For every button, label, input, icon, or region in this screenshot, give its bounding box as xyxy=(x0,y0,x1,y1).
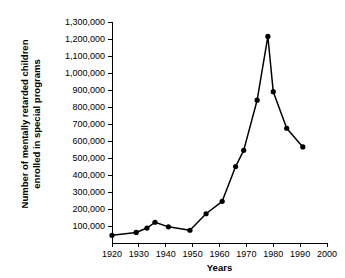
data-point-marker xyxy=(241,148,246,153)
y-axis-tick-label: 300,000 xyxy=(72,187,105,197)
data-series-line xyxy=(112,36,303,235)
y-axis-tick-label: 200,000 xyxy=(72,204,105,214)
data-point-marker xyxy=(265,34,270,39)
data-point-marker xyxy=(187,228,192,233)
x-axis-title: Years xyxy=(207,262,232,273)
data-point-marker xyxy=(271,89,276,94)
x-axis-tick-label: 1940 xyxy=(156,249,176,259)
x-axis-tick-label: 2000 xyxy=(317,249,337,259)
y-axis-tick-label: 800,000 xyxy=(72,102,105,112)
data-point-marker xyxy=(284,126,289,131)
data-point-marker xyxy=(144,225,149,230)
data-point-marker xyxy=(300,144,305,149)
y-axis-tick-label: 1,200,000 xyxy=(65,34,105,44)
data-point-marker xyxy=(134,230,139,235)
x-axis-tick-label: 1930 xyxy=(129,249,149,259)
data-point-marker xyxy=(166,224,171,229)
data-point-marker xyxy=(109,233,114,238)
data-point-marker xyxy=(152,220,157,225)
y-axis-title-line-2: enrolled in special programs xyxy=(31,59,42,188)
data-point-marker xyxy=(233,164,238,169)
line-chart-figure: 100,000200,000300,000400,000500,000600,0… xyxy=(0,0,345,278)
y-axis-tick-label: 900,000 xyxy=(72,85,105,95)
y-axis-title-line-1: Number of mentally retarded children xyxy=(19,39,30,208)
y-axis-tick-label: 1,000,000 xyxy=(65,68,105,78)
x-axis-tick-label: 1970 xyxy=(236,249,256,259)
y-axis-tick-label: 500,000 xyxy=(72,153,105,163)
y-axis-tick-label: 1,300,000 xyxy=(65,17,105,27)
data-point-marker xyxy=(255,98,260,103)
y-axis-tick-label: 100,000 xyxy=(72,221,105,231)
y-axis-tick-label: 700,000 xyxy=(72,119,105,129)
x-axis-tick-label: 1920 xyxy=(102,249,122,259)
x-axis-tick-label: 1990 xyxy=(290,249,310,259)
y-axis-tick-label: 600,000 xyxy=(72,136,105,146)
x-axis-tick-label: 1950 xyxy=(183,249,203,259)
data-point-marker xyxy=(220,199,225,204)
x-axis-tick-label: 1980 xyxy=(263,249,283,259)
chart-plot-area: 100,000200,000300,000400,000500,000600,0… xyxy=(0,0,345,278)
y-axis-title: Number of mentally retarded childrenenro… xyxy=(19,39,42,208)
y-axis-tick-label: 1,100,000 xyxy=(65,51,105,61)
y-axis-tick-label: 400,000 xyxy=(72,170,105,180)
data-point-marker xyxy=(203,211,208,216)
x-axis-tick-label: 1960 xyxy=(209,249,229,259)
